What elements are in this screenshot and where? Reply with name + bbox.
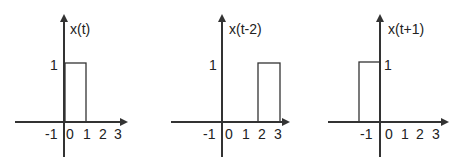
tick-label: 1 [401,126,409,142]
tick-label: 2 [416,126,424,142]
plot-label: x(t+1) [388,21,424,37]
tick-label: -1 [45,126,58,142]
tick-label: 2 [99,126,107,142]
plot-label: x(t) [70,21,90,37]
plot-label: x(t-2) [229,21,262,37]
tick-label: 1 [83,126,91,142]
pulse-rect [258,63,280,122]
pulse-rect [359,62,380,122]
tick-label: 0 [225,126,233,142]
tick-label: 1 [242,126,250,142]
panel-x-t: x(t) 1 -1 0 1 2 3 [15,16,126,157]
height-label: 1 [384,57,392,73]
tick-label: 3 [274,126,282,142]
panel-x-t-minus-2: x(t-2) 1 -1 0 1 2 3 [171,16,288,157]
height-label: 1 [50,57,58,73]
tick-label: -1 [203,126,216,142]
tick-label: 0 [66,126,74,142]
height-label: 1 [209,57,217,73]
tick-label: 3 [432,126,440,142]
tick-label: 0 [385,126,393,142]
tick-label: -1 [360,126,373,142]
panel-x-t-plus-1: x(t+1) 1 -1 0 1 2 3 [328,16,447,157]
signal-shift-diagram: x(t) 1 -1 0 1 2 3 x(t-2) 1 -1 0 1 2 3 x(… [0,0,459,165]
tick-label: 2 [258,126,266,142]
tick-label: 3 [114,126,122,142]
pulse-rect [65,63,86,122]
